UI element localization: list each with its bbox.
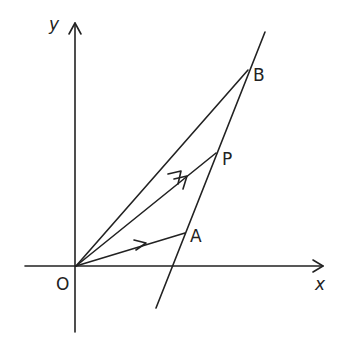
x-axis-label: x (315, 276, 325, 293)
vector-diagram (0, 0, 348, 355)
vector-oa (76, 233, 185, 266)
y-axis-label: y (49, 16, 59, 33)
point-a-label: A (190, 228, 202, 245)
vector-ob-arrowhead-icon (168, 171, 181, 184)
y-axis (69, 23, 81, 332)
origin-label: O (56, 276, 69, 293)
point-p-label: P (222, 151, 232, 168)
point-b-label: B (253, 67, 265, 84)
